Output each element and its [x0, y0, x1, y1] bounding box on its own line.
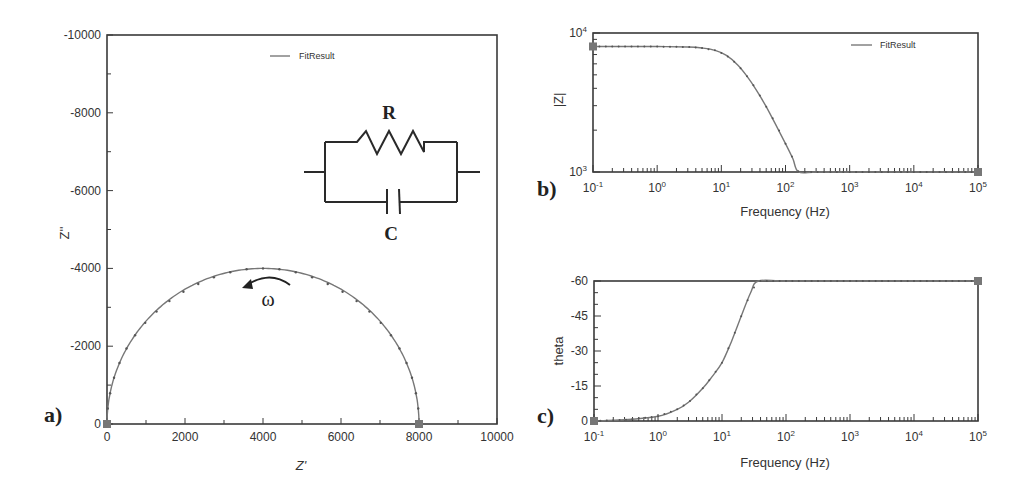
tick-label: 103 [841, 429, 859, 444]
plot-a-frame [107, 35, 497, 424]
resistor-label: R [382, 102, 396, 123]
tick-label: 101 [712, 180, 730, 195]
tick-label: -30 [571, 344, 589, 358]
tick-label: 0 [581, 414, 588, 428]
plot-a-ylabel: Z'' [57, 227, 72, 240]
arrowhead-icon [242, 279, 253, 289]
capacitor-plate-right [399, 189, 400, 214]
plot-c-curve [594, 280, 978, 421]
tick-label: -2000 [70, 339, 101, 353]
plot-c-frame [594, 281, 978, 421]
tick-label: 100 [649, 429, 667, 444]
plot-a-xlabel: Z' [295, 458, 307, 473]
plot-c-xlabel: Frequency (Hz) [740, 455, 830, 470]
tick-label: 104 [905, 429, 923, 444]
tick-label: -10000 [64, 28, 102, 42]
tick-label: 105 [969, 429, 987, 444]
bode-phase-plot: 10-11001011021031041050-15-30-45-60 Freq… [537, 274, 987, 470]
panel-label-b: b) [537, 176, 557, 201]
tick-label: 10-1 [583, 180, 604, 195]
plot-a-ticks: 02000400060008000100000-2000-4000-6000-8… [64, 28, 514, 444]
tick-label: 6000 [328, 430, 355, 444]
capacitor-label: C [384, 223, 398, 244]
nyquist-plot: 02000400060008000100000-2000-4000-6000-8… [44, 28, 514, 473]
tick-label: -60 [571, 274, 589, 288]
legend-a-label: FitResult [299, 51, 335, 61]
plot-b-frame [593, 33, 978, 172]
tick-label: 10-1 [584, 429, 605, 444]
omega-arrow: ω [242, 278, 290, 311]
panel-label-a: a) [44, 402, 62, 427]
tick-label: 2000 [172, 430, 199, 444]
tick-label: 0 [94, 417, 101, 431]
tick-label: -15 [571, 379, 589, 393]
plot-b-curve [593, 47, 978, 173]
plot-b-markers [589, 42, 982, 176]
figure: 02000400060008000100000-2000-4000-6000-8… [0, 0, 1024, 495]
tick-label: 4000 [250, 430, 277, 444]
tick-label: -4000 [70, 261, 101, 275]
plot-b-ticks: 10-1100101102103104105103104 [569, 25, 987, 195]
omega-label: ω [261, 288, 274, 310]
tick-label: -8000 [70, 106, 101, 120]
tick-label: 104 [905, 180, 923, 195]
tick-label: 0 [104, 430, 111, 444]
tick-label: 10000 [480, 430, 514, 444]
tick-label: 8000 [406, 430, 433, 444]
plot-b-xlabel: Frequency (Hz) [740, 204, 830, 219]
tick-label: 102 [777, 180, 795, 195]
plot-c-ylabel: theta [551, 336, 566, 366]
legend-b-label: FitResult [880, 40, 916, 50]
rc-circuit-diagram: R C [304, 102, 480, 244]
tick-label: 104 [569, 25, 587, 40]
tick-label: 101 [713, 429, 731, 444]
tick-label: 103 [569, 164, 587, 179]
bode-magnitude-plot: 10-1100101102103104105103104 FitResult F… [537, 25, 987, 219]
tick-label: 105 [969, 180, 987, 195]
tick-label: 103 [841, 180, 859, 195]
panel-label-c: c) [537, 403, 554, 428]
tick-label: -6000 [70, 184, 101, 198]
tick-label: 102 [777, 429, 795, 444]
plot-b-ylabel: |Z| [551, 93, 566, 108]
plot-c-markers [590, 277, 982, 425]
tick-label: -45 [571, 309, 589, 323]
tick-label: 100 [648, 180, 666, 195]
